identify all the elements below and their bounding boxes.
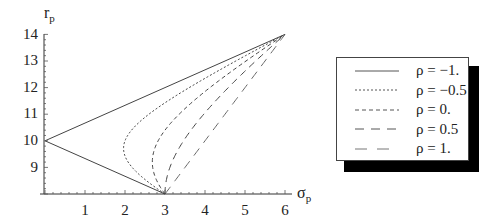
series-line xyxy=(152,34,285,194)
series-line xyxy=(165,34,285,194)
x-tick-label: 2 xyxy=(121,202,129,218)
y-tick-label: 11 xyxy=(24,105,38,121)
legend-item: ρ = 1. xyxy=(337,139,468,159)
legend-swatch-dotted xyxy=(355,85,399,95)
legend-label: ρ = 1. xyxy=(416,140,451,157)
legend-label: ρ = 0.5 xyxy=(416,121,458,138)
legend-label: ρ = −1. xyxy=(416,62,459,79)
y-axis-label: rp xyxy=(44,4,55,24)
x-tick-labels: 1 2 3 4 5 6 xyxy=(81,202,289,218)
x-tick-label: 1 xyxy=(81,202,89,218)
y-tick-label: 14 xyxy=(23,26,39,42)
legend-label: ρ = −0.5 xyxy=(416,82,467,99)
legend: ρ = −1. ρ = −0.5 ρ = 0. ρ = 0.5 ρ = 1. xyxy=(336,57,469,161)
y-tick-label: 10 xyxy=(23,132,38,148)
legend-item: ρ = −0.5 xyxy=(337,81,468,101)
legend-item: ρ = 0. xyxy=(337,100,468,120)
y-tick-labels: 9 10 11 12 13 14 xyxy=(23,26,39,175)
y-tick-label: 13 xyxy=(23,52,38,68)
y-tick-label: 9 xyxy=(31,159,39,175)
legend-item: ρ = 0.5 xyxy=(337,120,468,140)
x-tick-label: 5 xyxy=(241,202,249,218)
x-axis-label: σp xyxy=(297,184,312,204)
x-tick-label: 6 xyxy=(281,202,289,218)
legend-swatch-longest-dashed xyxy=(355,144,399,154)
legend-swatch-solid xyxy=(355,66,399,76)
legend-label: ρ = 0. xyxy=(416,101,451,118)
legend-item: ρ = −1. xyxy=(337,61,468,81)
y-tick-label: 12 xyxy=(23,79,38,95)
legend-swatch-long-dashed xyxy=(355,124,399,134)
x-tick-label: 4 xyxy=(201,202,209,218)
x-tick-label: 3 xyxy=(161,202,169,218)
legend-swatch-dashed xyxy=(355,105,399,115)
axis-ticks xyxy=(44,34,285,194)
series-line xyxy=(45,34,285,194)
chart-series-group xyxy=(45,34,285,194)
